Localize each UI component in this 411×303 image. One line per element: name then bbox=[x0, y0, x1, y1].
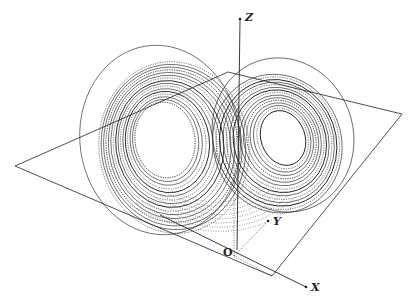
origin-label: O bbox=[223, 246, 233, 259]
y-axis bbox=[234, 221, 268, 256]
lorenz-attractor-figure: Z Y O X bbox=[0, 0, 411, 303]
x-axis-label: X bbox=[311, 281, 320, 294]
z-axis-label: Z bbox=[245, 11, 253, 24]
attractor-orbits bbox=[68, 35, 376, 245]
y-axis-label: Y bbox=[273, 215, 281, 228]
reference-plane bbox=[15, 72, 402, 276]
attractor-drawing bbox=[0, 0, 411, 303]
